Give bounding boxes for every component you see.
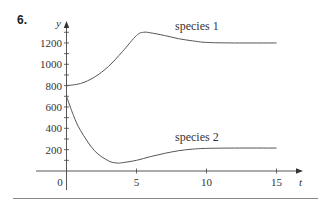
y-tick-label: 200: [46, 144, 63, 156]
x-tick-label: 10: [201, 176, 213, 188]
x-axis-arrow-icon: [296, 168, 303, 173]
y-tick-label: 1200: [40, 37, 63, 49]
y-axis-arrow-icon: [64, 21, 69, 28]
y-axis: y 20040060080010001200: [40, 17, 69, 190]
y-axis-label: y: [55, 17, 61, 29]
x-tick-label: 5: [134, 176, 140, 188]
x-tick-label: 15: [271, 176, 283, 188]
y-tick-label: 800: [46, 80, 63, 92]
species-2-curve: [67, 96, 277, 163]
species-1-label: species 1: [175, 19, 219, 33]
species-2-label: species 2: [175, 130, 219, 144]
problem-number: 6.: [17, 13, 27, 27]
x-tick-label: 0: [57, 176, 63, 188]
x-axis-label: t: [299, 176, 303, 188]
x-axis: t 051015: [36, 168, 303, 188]
y-tick-label: 400: [46, 122, 63, 134]
y-tick-label: 600: [46, 101, 63, 113]
species-1-curve: [67, 32, 277, 86]
y-tick-label: 1000: [40, 58, 63, 70]
population-chart: 6. y 20040060080010001200 t 051015 speci…: [0, 0, 322, 203]
